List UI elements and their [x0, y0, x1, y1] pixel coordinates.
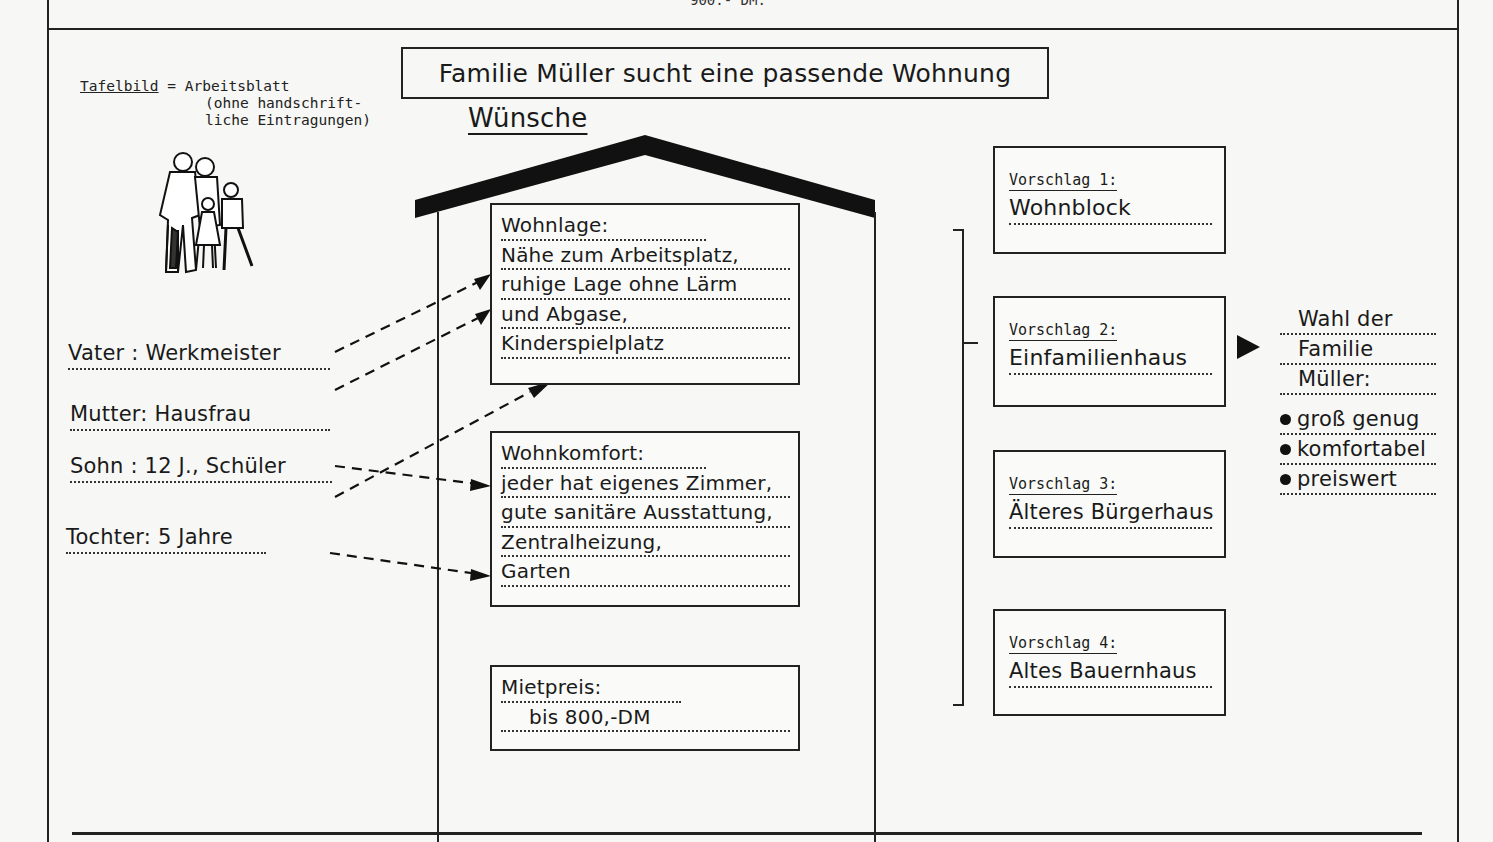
- bullet-dot-icon: [1280, 474, 1291, 485]
- proposal-box-2: Vorschlag 2: Einfamilienhaus: [993, 296, 1226, 407]
- wish-box-title: Wohnlage:: [501, 211, 706, 241]
- choice-reason: preiswert: [1280, 465, 1436, 495]
- wish-item: jeder hat eigenes Zimmer,: [501, 469, 790, 499]
- wish-box-title: Wohnkomfort:: [501, 439, 706, 469]
- family-member-label: Sohn : 12 J., Schüler: [70, 451, 332, 483]
- proposal-value: Altes Bauernhaus: [1009, 656, 1212, 688]
- wish-item: bis 800,-DM: [501, 703, 790, 733]
- wish-item: gute sanitäre Ausstattung,: [501, 498, 790, 528]
- wish-box-title: Mietpreis:: [501, 673, 681, 703]
- wish-item: Garten: [501, 557, 790, 587]
- proposal-label: Vorschlag 4:: [1009, 634, 1117, 654]
- proposals-bracket: [953, 230, 978, 705]
- arrowhead-icon: [475, 309, 491, 325]
- family-member-label: Tochter: 5 Jahre: [66, 522, 266, 554]
- family-member-father: Vater : Werkmeister: [68, 338, 330, 370]
- proposal-label: Vorschlag 2:: [1009, 321, 1117, 341]
- proposal-value: Wohnblock: [1009, 193, 1212, 225]
- proposal-box-1: Vorschlag 1: Wohnblock: [993, 146, 1226, 254]
- proposal-box-4: Vorschlag 4: Altes Bauernhaus: [993, 609, 1226, 716]
- proposal-value: Einfamilienhaus: [1009, 343, 1212, 375]
- family-member-son: Sohn : 12 J., Schüler: [70, 451, 332, 483]
- choice-reason-text: komfortabel: [1297, 435, 1426, 464]
- wish-item: Zentralheizung,: [501, 528, 790, 558]
- choice-heading-line: Wahl der: [1280, 305, 1436, 335]
- triangle-right-icon: [1237, 335, 1260, 359]
- family-member-label: Mutter: Hausfrau: [70, 399, 330, 431]
- wish-item: ruhige Lage ohne Lärm: [501, 270, 790, 300]
- family-member-daughter: Tochter: 5 Jahre: [66, 522, 266, 554]
- wish-item: Kinderspielplatz: [501, 329, 790, 359]
- bullet-dot-icon: [1280, 444, 1291, 455]
- choice-reason: groß genug: [1280, 405, 1436, 435]
- wish-item: und Abgase,: [501, 300, 790, 330]
- family-illustration-icon: [160, 153, 252, 272]
- arrowhead-icon: [470, 569, 491, 581]
- wish-box-rent: Mietpreis: bis 800,-DM: [490, 665, 800, 751]
- family-member-label: Vater : Werkmeister: [68, 338, 330, 370]
- arrowhead-icon: [474, 274, 491, 290]
- choice-reason: komfortabel: [1280, 435, 1436, 465]
- bullet-dot-icon: [1280, 414, 1291, 425]
- choice-reason-text: groß genug: [1297, 405, 1419, 434]
- proposal-box-3: Vorschlag 3: Älteres Bürgerhaus: [993, 450, 1226, 558]
- choice-reason-text: preiswert: [1297, 465, 1397, 494]
- arrowhead-icon: [470, 479, 491, 491]
- wish-box-location: Wohnlage: Nähe zum Arbeitsplatz, ruhige …: [490, 203, 800, 385]
- wish-item: Nähe zum Arbeitsplatz,: [501, 241, 790, 271]
- family-choice: Wahl der Familie Müller: groß genug komf…: [1280, 305, 1436, 495]
- proposal-label: Vorschlag 3:: [1009, 475, 1117, 495]
- family-member-mother: Mutter: Hausfrau: [70, 399, 330, 431]
- wish-box-comfort: Wohnkomfort: jeder hat eigenes Zimmer, g…: [490, 431, 800, 607]
- choice-heading-line: Familie: [1280, 335, 1436, 365]
- proposal-label: Vorschlag 1:: [1009, 171, 1117, 191]
- proposal-value: Älteres Bürgerhaus: [1009, 497, 1212, 529]
- choice-heading-line: Müller:: [1280, 365, 1436, 395]
